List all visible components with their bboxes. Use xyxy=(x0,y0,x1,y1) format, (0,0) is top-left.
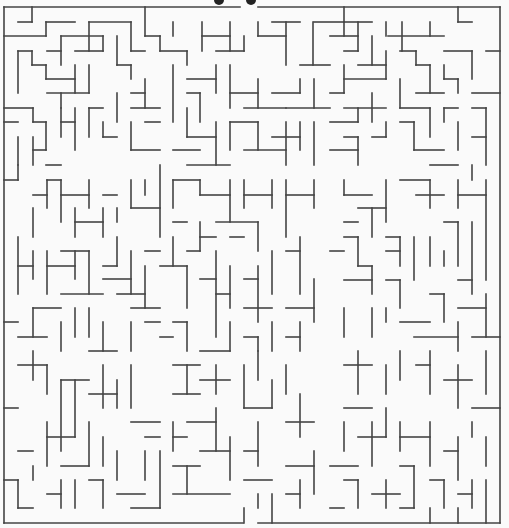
maze-walls xyxy=(0,0,509,528)
